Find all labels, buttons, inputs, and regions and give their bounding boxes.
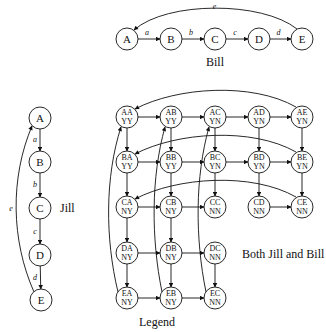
- svg-text:CC: CC: [210, 198, 221, 207]
- svg-text:B: B: [167, 33, 174, 45]
- bill-edge-label-d: d: [277, 28, 282, 37]
- svg-text:YN: YN: [209, 162, 221, 171]
- svg-text:A: A: [36, 112, 44, 124]
- bill-title: Bill: [206, 55, 225, 69]
- svg-text:C: C: [36, 202, 43, 214]
- jill-title: Jill: [60, 201, 75, 215]
- svg-text:NN: NN: [209, 253, 221, 262]
- svg-text:EC: EC: [210, 289, 220, 298]
- state-node-BE: BEYN: [291, 151, 313, 173]
- svg-text:NY: NY: [165, 253, 177, 262]
- svg-text:D: D: [36, 249, 44, 261]
- svg-text:C: C: [211, 33, 218, 45]
- svg-text:NY: NY: [121, 207, 133, 216]
- state-node-AA: AAYY: [116, 106, 138, 128]
- svg-text:E: E: [38, 294, 45, 306]
- svg-text:CE: CE: [297, 198, 307, 207]
- svg-text:DC: DC: [209, 244, 220, 253]
- svg-text:NY: NY: [121, 253, 133, 262]
- svg-text:BC: BC: [210, 153, 221, 162]
- svg-text:BA: BA: [121, 153, 132, 162]
- state-node-BC: BCYN: [204, 151, 226, 173]
- jill-edge-label-e: e: [9, 204, 13, 213]
- svg-text:AB: AB: [165, 108, 176, 117]
- jill-edge-label-c: c: [33, 227, 37, 236]
- svg-text:NN: NN: [209, 298, 221, 307]
- jill-edge-label-d: d: [33, 273, 38, 282]
- svg-text:AC: AC: [209, 108, 220, 117]
- legend-label: Legend: [139, 315, 175, 329]
- svg-text:NN: NN: [296, 207, 308, 216]
- state-node-BA: BAYY: [116, 151, 138, 173]
- state-node-AE: AEYN: [291, 106, 313, 128]
- jill-edge-label-b: b: [33, 180, 37, 189]
- bill-edge-label-c: c: [233, 28, 237, 37]
- svg-text:DB: DB: [165, 244, 176, 253]
- state-node-EA: EANY: [116, 287, 138, 309]
- svg-text:CA: CA: [121, 198, 132, 207]
- svg-text:YN: YN: [296, 162, 308, 171]
- bill-edge-label-b: b: [189, 28, 193, 37]
- svg-text:YN: YN: [253, 117, 265, 126]
- svg-text:DA: DA: [121, 244, 133, 253]
- svg-text:A: A: [123, 33, 131, 45]
- svg-text:YY: YY: [165, 117, 177, 126]
- state-node-EB: EBNY: [160, 287, 182, 309]
- bill-node-A: A: [116, 28, 138, 50]
- svg-text:AE: AE: [297, 108, 308, 117]
- svg-text:AA: AA: [121, 108, 133, 117]
- svg-text:NN: NN: [253, 207, 265, 216]
- state-node-BB: BBYY: [160, 151, 182, 173]
- bill-node-D: D: [248, 28, 270, 50]
- bill-node-C: C: [204, 28, 226, 50]
- svg-text:EB: EB: [166, 289, 176, 298]
- svg-text:YN: YN: [296, 117, 308, 126]
- svg-text:BD: BD: [253, 153, 264, 162]
- state-node-CD: CDNN: [248, 196, 270, 218]
- svg-text:B: B: [36, 156, 43, 168]
- state-node-DC: DCNN: [204, 242, 226, 264]
- svg-text:YY: YY: [121, 117, 133, 126]
- state-node-EC: ECNN: [204, 287, 226, 309]
- both-title: Both Jill and Bill: [242, 247, 325, 261]
- jill-node-B: B: [29, 151, 51, 173]
- state-node-CE: CENN: [291, 196, 313, 218]
- jill-edge-d: [40, 266, 41, 289]
- svg-text:NY: NY: [121, 298, 133, 307]
- svg-text:YN: YN: [253, 162, 265, 171]
- state-node-AD: ADYN: [248, 106, 270, 128]
- bill-edge-label-a: a: [145, 28, 149, 37]
- state-node-CA: CANY: [116, 196, 138, 218]
- svg-text:NY: NY: [165, 207, 177, 216]
- jill-node-C: C: [29, 197, 51, 219]
- svg-text:CD: CD: [253, 198, 264, 207]
- svg-text:NY: NY: [165, 298, 177, 307]
- svg-text:NN: NN: [209, 207, 221, 216]
- svg-text:D: D: [255, 33, 263, 45]
- state-diagram: abcdeabcde ABCDEABCDEAAYYABYYACYNADYNAEY…: [0, 0, 326, 332]
- state-node-DB: DBNY: [160, 242, 182, 264]
- state-node-AB: ABYY: [160, 106, 182, 128]
- svg-text:BB: BB: [166, 153, 177, 162]
- bill-node-E: E: [291, 28, 313, 50]
- state-node-CB: CBNY: [160, 196, 182, 218]
- svg-text:YN: YN: [209, 117, 221, 126]
- jill-node-D: D: [29, 244, 51, 266]
- bill-node-B: B: [160, 28, 182, 50]
- bill-edge-e: [134, 8, 297, 30]
- svg-text:E: E: [299, 33, 306, 45]
- jill-node-E: E: [30, 289, 52, 311]
- state-node-BD: BDYN: [248, 151, 270, 173]
- svg-text:BE: BE: [297, 153, 307, 162]
- svg-text:AD: AD: [253, 108, 265, 117]
- svg-text:EA: EA: [122, 289, 133, 298]
- svg-text:CB: CB: [166, 198, 177, 207]
- svg-text:YY: YY: [121, 162, 133, 171]
- state-node-CC: CCNN: [204, 196, 226, 218]
- jill-node-A: A: [29, 107, 51, 129]
- state-node-DA: DANY: [116, 242, 138, 264]
- jill-edge-label-a: a: [33, 135, 37, 144]
- state-node-AC: ACYN: [204, 106, 226, 128]
- svg-text:YY: YY: [165, 162, 177, 171]
- bill-edge-label-e: e: [213, 2, 217, 11]
